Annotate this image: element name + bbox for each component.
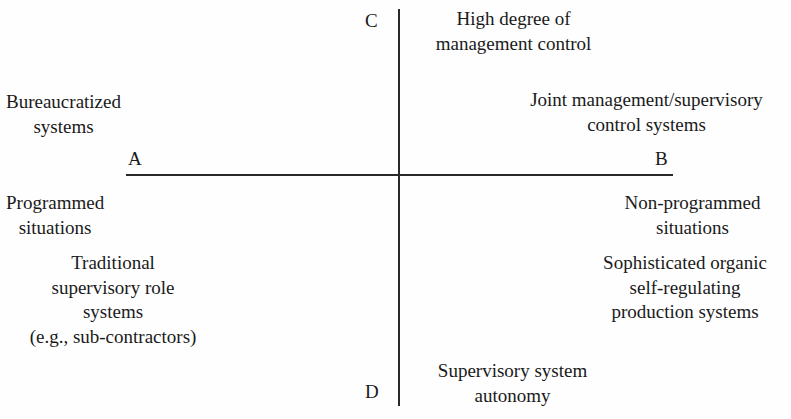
quadrant-label-bottom-left: Traditional supervisory role systems (e.…: [7, 251, 219, 350]
label-line: Non-programmed: [600, 191, 785, 216]
label-line: production systems: [585, 300, 785, 325]
label-line: Supervisory system: [411, 359, 614, 384]
horizontal-axis-right-label: Non-programmed situations: [600, 191, 785, 240]
axis-endpoint-label-b: B: [655, 149, 668, 168]
axis-endpoint-label-a: A: [128, 149, 142, 168]
label-line: Traditional: [7, 251, 219, 276]
label-line: control systems: [508, 113, 785, 138]
label-line: situations: [6, 216, 104, 241]
vertical-axis-line: [398, 9, 400, 406]
label-line: Joint management/supervisory: [508, 88, 785, 113]
matrix-diagram-canvas: C D A B High degree of management contro…: [0, 0, 791, 419]
label-line: Bureaucratized: [6, 90, 121, 115]
label-line: systems: [6, 115, 121, 140]
label-line: situations: [600, 216, 785, 241]
label-line: High degree of: [411, 7, 616, 32]
label-line: supervisory role: [7, 276, 219, 301]
vertical-axis-bottom-label: Supervisory system autonomy: [411, 359, 614, 408]
horizontal-axis-line: [126, 174, 673, 176]
label-line: self-regulating: [585, 276, 785, 301]
label-line: Programmed: [6, 191, 104, 216]
horizontal-axis-left-label: Programmed situations: [6, 191, 104, 240]
label-line: Sophisticated organic: [585, 251, 785, 276]
label-line: (e.g., sub-contractors): [7, 325, 219, 350]
axis-endpoint-label-c: C: [365, 11, 378, 30]
quadrant-label-bottom-right: Sophisticated organic self-regulating pr…: [585, 251, 785, 325]
label-line: systems: [7, 300, 219, 325]
label-line: autonomy: [411, 384, 614, 409]
axis-endpoint-label-d: D: [365, 382, 379, 401]
quadrant-label-top-right: Joint management/supervisory control sys…: [508, 88, 785, 137]
vertical-axis-top-label: High degree of management control: [411, 7, 616, 56]
label-line: management control: [411, 32, 616, 57]
quadrant-label-top-left: Bureaucratized systems: [6, 90, 121, 139]
